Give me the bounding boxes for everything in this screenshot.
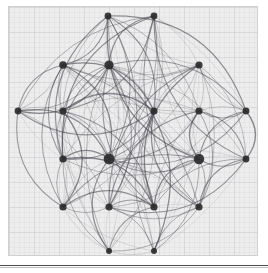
graph-edge <box>189 111 199 159</box>
graph-edge <box>109 251 154 255</box>
graph-node[interactable] <box>150 107 157 114</box>
graph-edge <box>63 207 109 213</box>
bottom-rule <box>0 265 268 266</box>
graph-node[interactable] <box>104 154 115 165</box>
graph-node[interactable] <box>195 61 202 68</box>
graph-node[interactable] <box>243 108 250 115</box>
graph-edge <box>63 65 109 207</box>
bottom-rule-secondary <box>0 267 268 268</box>
graph-edge <box>63 207 154 251</box>
graph-node[interactable] <box>150 203 157 210</box>
plot-panel <box>8 6 258 256</box>
graph-node[interactable] <box>15 108 22 115</box>
graph-edge <box>199 65 246 111</box>
graph-node[interactable] <box>151 248 157 254</box>
graph-edge <box>106 207 109 251</box>
graph-node[interactable] <box>59 107 66 114</box>
graph-edge <box>154 207 160 251</box>
graph-edge <box>109 207 154 251</box>
graph-edge <box>199 65 246 111</box>
graph-node[interactable] <box>194 154 204 164</box>
graph-node[interactable] <box>59 203 66 210</box>
network-graph <box>9 7 258 256</box>
graph-node[interactable] <box>243 156 250 163</box>
graph-node[interactable] <box>59 61 67 69</box>
graph-node[interactable] <box>195 107 202 114</box>
figure-root <box>0 0 268 273</box>
graph-node[interactable] <box>151 13 158 20</box>
graph-edge <box>199 156 246 159</box>
graph-node[interactable] <box>106 248 112 254</box>
graph-node[interactable] <box>105 13 112 20</box>
graph-edge <box>63 159 199 175</box>
graph-edge <box>199 65 246 159</box>
edges-layer <box>17 16 256 255</box>
graph-node[interactable] <box>105 203 112 210</box>
graph-edge <box>57 159 63 207</box>
graph-edge <box>246 111 255 159</box>
graph-node[interactable] <box>59 155 66 162</box>
graph-edge <box>109 207 154 251</box>
graph-node[interactable] <box>195 203 202 210</box>
graph-edge <box>108 16 199 65</box>
graph-node[interactable] <box>104 60 113 69</box>
